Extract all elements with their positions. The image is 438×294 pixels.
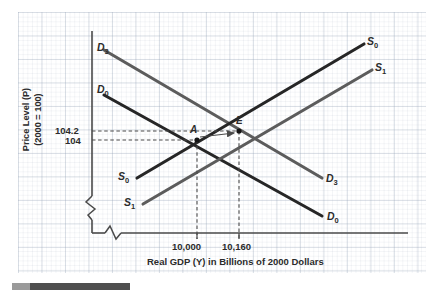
- point-e-marker: [236, 128, 241, 133]
- curve-label-s1-left: S1: [124, 196, 135, 211]
- bottom-gray-bar: [12, 283, 130, 290]
- y-tick-label-104: 104: [65, 135, 81, 146]
- x-tick-marks: [197, 233, 239, 239]
- chart-container: D3 D0 D3 D0 S0 S1 S0 S1 A E 104.2 104 10…: [0, 0, 438, 294]
- y-axis-title-line1: Price Level (P): [21, 88, 31, 151]
- point-a-marker: [194, 137, 199, 142]
- y-axis-title-line2: (2000 = 100): [32, 93, 42, 145]
- curve-label-d3-right: D3: [326, 172, 338, 187]
- point-label-e: E: [236, 115, 243, 126]
- curve-s0: [137, 44, 364, 178]
- curve-label-s0-top-right: S0: [367, 35, 378, 50]
- x-tick-label-10160: 10,160: [222, 241, 251, 252]
- curve-label-s0-left: S0: [118, 170, 129, 185]
- shift-arrow: [200, 133, 234, 137]
- x-tick-label-10000: 10,000: [172, 241, 201, 252]
- guide-lines: [92, 131, 239, 239]
- x-axis-title: Real GDP (Y) in Billions of 2000 Dollars: [147, 256, 324, 267]
- curve-label-d0-right: D0: [327, 210, 339, 225]
- x-axis: [92, 226, 408, 239]
- y-axis: [86, 31, 95, 233]
- curve-label-d3-top: D3: [97, 41, 109, 56]
- y-axis-title: Price Level (P) (2000 = 100): [21, 74, 44, 166]
- curve-label-s1-top-right: S1: [375, 61, 386, 76]
- curve-label-d0-top: D0: [97, 83, 109, 98]
- point-label-a: A: [190, 124, 197, 135]
